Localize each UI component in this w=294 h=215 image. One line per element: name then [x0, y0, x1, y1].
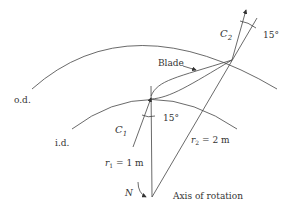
- r2-label: r2 = 2 m: [191, 135, 230, 146]
- inlet-angle-label: 15°: [163, 113, 179, 123]
- turbine-blade-diagram: o.d. i.d. Blade C2 15° C1 15° r1 = 1 m r…: [0, 0, 294, 215]
- axis-label: Axis of rotation: [172, 191, 243, 201]
- c2-label: C2: [220, 28, 233, 42]
- od-label: o.d.: [14, 95, 31, 105]
- r2-radius-line: [152, 18, 257, 197]
- blade-pointer: [183, 66, 196, 70]
- r1-label: r1 = 1 m: [105, 158, 144, 169]
- rotation-speed-label: N: [124, 188, 134, 198]
- blade-label: Blade: [158, 58, 184, 68]
- c1-velocity-line: [133, 98, 151, 147]
- inner-diameter-arc: [72, 100, 237, 130]
- c1-label: C1: [115, 124, 127, 138]
- r1-radius-line: [151, 86, 152, 197]
- outer-diameter-arc: [32, 46, 277, 90]
- outlet-angle-label: 15°: [263, 30, 279, 40]
- rotation-arrow: [138, 182, 146, 197]
- id-label: i.d.: [55, 138, 70, 148]
- c2-velocity-arrow: [232, 10, 246, 60]
